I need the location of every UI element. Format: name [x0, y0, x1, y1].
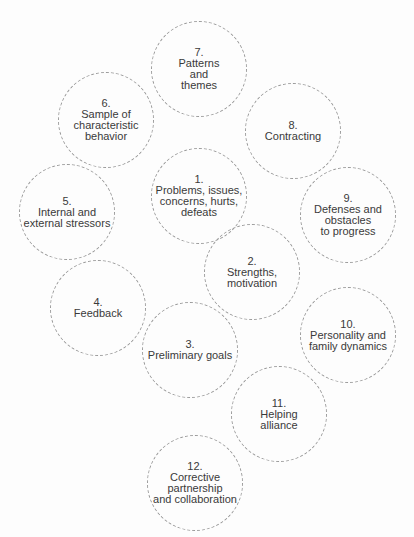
- node-label-line: external stressors: [24, 218, 111, 229]
- node-7: 7.Patternsandthemes: [151, 21, 247, 117]
- node-2: 2.Strengths,motivation: [204, 224, 300, 320]
- node-label-line: Strengths,: [227, 267, 277, 278]
- node-label-line: to progress: [320, 226, 375, 237]
- node-11: 11.Helpingalliance: [231, 366, 327, 462]
- node-number: 2.: [247, 256, 256, 267]
- node-label-line: Preliminary goals: [148, 350, 232, 361]
- node-3: 3.Preliminary goals: [142, 302, 238, 398]
- node-label-line: Internal and: [38, 207, 96, 218]
- node-5: 5.Internal andexternal stressors: [19, 164, 115, 260]
- node-number: 11.: [272, 398, 286, 409]
- node-label-line: Contracting: [265, 131, 321, 142]
- node-6: 6.Sample ofcharacteristicbehavior: [58, 72, 154, 168]
- node-label-line: and collaboration: [153, 494, 237, 505]
- node-label-line: family dynamics: [309, 341, 387, 352]
- node-4: 4.Feedback: [50, 260, 146, 356]
- node-label-line: themes: [181, 80, 217, 91]
- node-label-line: defeats: [181, 207, 217, 218]
- node-label-line: Personality and: [310, 330, 386, 341]
- node-label-line: alliance: [260, 420, 297, 431]
- node-number: 10.: [340, 319, 355, 330]
- node-12: 12.Correctivepartnershipand collaboratio…: [147, 435, 243, 531]
- node-8: 8.Contracting: [245, 83, 341, 179]
- node-label-line: motivation: [227, 278, 277, 289]
- node-number: 5.: [62, 196, 71, 207]
- node-label-line: Feedback: [74, 308, 122, 319]
- node-9: 9.Defenses andobstaclesto progress: [300, 167, 396, 263]
- node-label-line: Helping: [260, 409, 297, 420]
- node-label-line: behavior: [85, 131, 127, 142]
- node-10: 10.Personality andfamily dynamics: [300, 287, 396, 383]
- bubble-diagram: 7.Patternsandthemes6.Sample ofcharacteri…: [0, 0, 414, 537]
